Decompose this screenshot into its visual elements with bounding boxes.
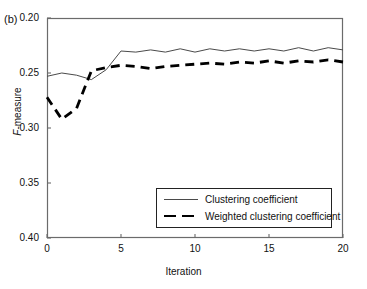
solid-segment [164, 199, 198, 200]
legend-item: Clustering coefficient [157, 191, 331, 208]
series-line-1 [47, 48, 343, 80]
legend-label: Weighted clustering coefficient [205, 211, 340, 222]
legend-label: Clustering coefficient [205, 194, 298, 205]
legend-dashed-line-sample [164, 211, 198, 223]
plot-canvas [0, 0, 367, 289]
legend-item: Weighted clustering coefficient [157, 208, 331, 225]
legend-box: Clustering coefficientWeighted clusterin… [156, 188, 332, 228]
series-line-2 [47, 60, 343, 119]
data-series [47, 48, 343, 120]
legend-solid-line-sample [164, 194, 198, 206]
dash-segment [182, 215, 194, 218]
figure-panel-b: (b) 0.400.350.300.250.20 05101520 F-meas… [0, 0, 367, 289]
dash-segment [164, 215, 176, 218]
